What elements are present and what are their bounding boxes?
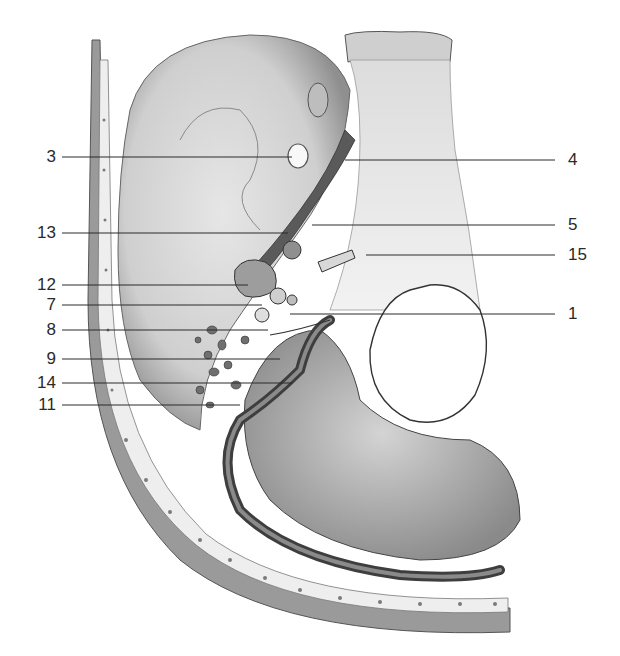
clivus — [330, 60, 480, 310]
skull-section-drawing — [0, 0, 620, 656]
label-11: 11 — [12, 396, 56, 413]
anatomical-figure: 3 13 12 7 8 9 14 11 4 5 15 1 — [0, 0, 620, 656]
label-9: 9 — [12, 350, 56, 367]
label-7: 7 — [12, 296, 56, 313]
label-1: 1 — [568, 305, 577, 322]
label-12: 12 — [12, 276, 56, 293]
foramen-ovale — [288, 144, 308, 168]
label-4: 4 — [568, 151, 577, 168]
label-14: 14 — [12, 374, 56, 391]
label-5: 5 — [568, 216, 577, 233]
label-13: 13 — [12, 224, 56, 241]
label-15: 15 — [568, 246, 587, 263]
label-8: 8 — [12, 321, 56, 338]
label-3: 3 — [12, 148, 56, 165]
